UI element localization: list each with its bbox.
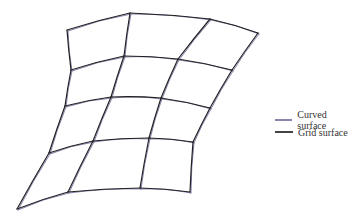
grid-segment xyxy=(72,57,125,71)
grid-segment xyxy=(141,139,150,189)
grid-segment xyxy=(161,98,210,108)
grid-segment xyxy=(178,19,210,59)
grid-segment xyxy=(49,106,65,153)
grid-segment xyxy=(125,14,131,57)
grid-segment xyxy=(94,98,112,142)
grid-segment xyxy=(149,138,193,142)
grid-segment xyxy=(66,71,72,107)
legend-item-curved-surface: Curved surface xyxy=(275,114,356,126)
legend-label: Grid surface xyxy=(298,127,348,138)
grid-segment xyxy=(69,142,94,193)
grid-segment xyxy=(130,13,210,19)
grid-segment xyxy=(210,70,232,108)
curved-surface-lines xyxy=(18,14,259,210)
grid-segment xyxy=(211,20,259,34)
grid-segment xyxy=(149,98,161,138)
grid-segment xyxy=(179,20,211,60)
grid-segment xyxy=(178,59,232,70)
grid-segment xyxy=(66,98,112,107)
grid-segment xyxy=(111,56,124,97)
legend-item-grid-surface: Grid surface xyxy=(275,126,356,138)
grid-segment xyxy=(211,71,233,109)
grid-segment xyxy=(150,99,162,139)
grid-segment xyxy=(140,138,149,188)
grid-segment xyxy=(93,97,111,141)
grid-segment xyxy=(233,34,259,71)
grid-surface-lines xyxy=(17,13,258,209)
grid-segment xyxy=(50,107,66,154)
grid-segment xyxy=(112,57,125,98)
grid-segment xyxy=(67,30,71,70)
grid-segment xyxy=(194,109,211,143)
grid-segment xyxy=(232,33,258,70)
legend: Curved surface Grid surface xyxy=(275,114,356,138)
grid-segment xyxy=(68,141,93,192)
grid-segment xyxy=(124,13,130,56)
grid-segment xyxy=(124,56,178,59)
grid-segment xyxy=(193,108,210,142)
grid-segment xyxy=(162,99,211,109)
grid-segment xyxy=(18,154,50,210)
grid-segment xyxy=(210,19,258,33)
grid-segment xyxy=(68,14,131,31)
grid-segment xyxy=(65,70,71,106)
grid-segment xyxy=(162,60,179,99)
grid-segment xyxy=(179,60,233,71)
grid-segment xyxy=(161,59,178,98)
grid-surface-swatch xyxy=(275,131,293,133)
curved-surface-swatch xyxy=(275,119,292,121)
grid-segment xyxy=(140,188,190,192)
grid-segment xyxy=(17,153,49,209)
